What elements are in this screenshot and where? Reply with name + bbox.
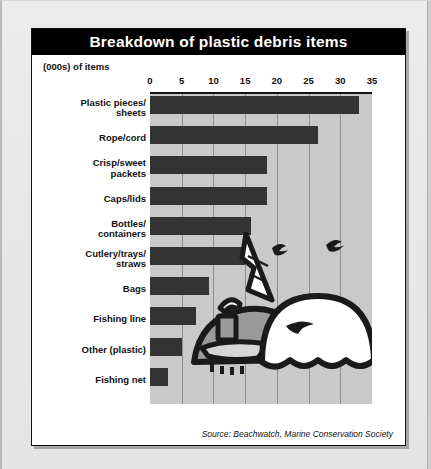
category-label: Plastic pieces/sheets <box>32 98 146 119</box>
page-background: Breakdown of plastic debris items (000s)… <box>0 0 431 469</box>
category-label: Crisp/sweetpackets <box>32 158 146 179</box>
bar <box>150 156 267 174</box>
bar-chart: 05101520253035 Plastic pieces/sheetsRope… <box>32 75 405 433</box>
x-tick-label-30: 30 <box>335 75 346 86</box>
x-tick-label-5: 5 <box>179 75 184 86</box>
x-tick-label-20: 20 <box>272 75 283 86</box>
bar <box>150 126 318 144</box>
x-tick-label-0: 0 <box>147 75 152 86</box>
bar <box>150 307 196 325</box>
category-axis-labels: Plastic pieces/sheetsRope/cordCrisp/swee… <box>32 92 146 404</box>
figure-title-bar: Breakdown of plastic debris items <box>32 29 405 55</box>
plot-area <box>150 92 372 404</box>
bar <box>150 217 251 235</box>
bar <box>150 96 359 114</box>
category-label: Fishing line <box>32 314 146 325</box>
bar <box>150 368 168 386</box>
x-tick-label-25: 25 <box>303 75 314 86</box>
x-axis-tick-labels: 05101520253035 <box>150 75 382 91</box>
bar <box>150 187 267 205</box>
bar-series <box>150 94 372 404</box>
figure-card: Breakdown of plastic debris items (000s)… <box>31 28 406 446</box>
x-tick-label-10: 10 <box>208 75 219 86</box>
bar <box>150 277 209 295</box>
category-label: Caps/lids <box>32 194 146 205</box>
bar <box>150 247 245 265</box>
x-tick-label-35: 35 <box>367 75 378 86</box>
category-label: Fishing net <box>32 375 146 386</box>
category-label: Other (plastic) <box>32 345 146 356</box>
x-tick-label-15: 15 <box>240 75 251 86</box>
source-credit: Source: Beachwatch, Marine Conservation … <box>202 429 393 439</box>
chart-subtitle: (000s) of items <box>43 61 110 72</box>
category-label: Rope/cord <box>32 133 146 144</box>
category-label: Bottles/containers <box>32 219 146 240</box>
category-label: Cutlery/trays/straws <box>32 249 146 270</box>
category-label: Bags <box>32 284 146 295</box>
bar <box>150 338 182 356</box>
page-title: Breakdown of plastic debris items <box>89 33 347 51</box>
